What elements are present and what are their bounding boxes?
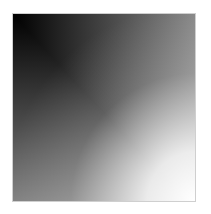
grayscale-gradient (13, 14, 195, 201)
gradient-graphic (13, 14, 195, 201)
gradient-square (12, 13, 196, 202)
